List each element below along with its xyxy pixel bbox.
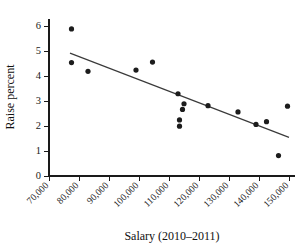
data-point: [253, 122, 258, 127]
data-point: [175, 91, 180, 96]
x-tick-label: 100,000: [112, 180, 141, 209]
y-axis-group: 0123456: [36, 19, 49, 181]
data-point: [85, 69, 90, 74]
x-tick-label: 140,000: [232, 180, 261, 209]
data-point: [69, 26, 74, 31]
y-tick-label: 4: [36, 70, 42, 81]
data-point: [181, 101, 186, 106]
data-points-group: [69, 26, 290, 158]
data-point: [235, 109, 240, 114]
x-tick-group: 70,00080,00090,000100,000110,000120,0001…: [25, 176, 291, 209]
data-point: [177, 124, 182, 129]
y-tick-label: 0: [36, 170, 41, 181]
x-axis-group: 70,00080,00090,000100,000110,000120,0001…: [25, 176, 295, 209]
y-tick-label: 2: [36, 120, 41, 131]
x-axis-title: Salary (2010–2011): [124, 229, 219, 243]
data-point: [180, 107, 185, 112]
data-point: [133, 67, 138, 72]
data-point: [177, 117, 182, 122]
y-tick-label: 6: [36, 20, 41, 31]
x-tick-label: 120,000: [172, 180, 201, 209]
data-point: [285, 104, 290, 109]
x-tick-label: 150,000: [262, 180, 291, 209]
x-tick-label: 80,000: [55, 180, 81, 206]
scatter-plot-figure: 0123456 70,00080,00090,000100,000110,000…: [0, 0, 304, 247]
data-point: [69, 60, 74, 65]
data-point: [205, 103, 210, 108]
x-tick-label: 90,000: [85, 180, 111, 206]
y-tick-label: 5: [36, 45, 41, 56]
x-tick-label: 130,000: [202, 180, 231, 209]
data-point: [264, 119, 269, 124]
x-tick-label: 70,000: [25, 180, 51, 206]
y-tick-group: 0123456: [36, 20, 49, 181]
y-tick-label: 3: [36, 95, 41, 106]
data-point: [150, 60, 155, 65]
y-axis-title: Raise percent: [3, 64, 17, 130]
chart-canvas: 0123456 70,00080,00090,000100,000110,000…: [0, 0, 304, 247]
data-point: [276, 153, 281, 158]
y-tick-label: 1: [36, 145, 41, 156]
x-tick-label: 110,000: [142, 180, 171, 209]
